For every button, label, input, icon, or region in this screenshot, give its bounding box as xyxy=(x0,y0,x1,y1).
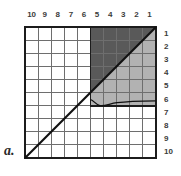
row-label-4: 4 xyxy=(164,69,176,77)
panel-letter: a. xyxy=(4,143,15,159)
row-label-8: 8 xyxy=(164,122,176,130)
row-label-1: 1 xyxy=(164,30,176,38)
row-label-9: 9 xyxy=(164,135,176,143)
column-label-4: 4 xyxy=(103,11,117,19)
column-label-10: 10 xyxy=(25,11,39,19)
figure-panel: 10 9 8 7 6 5 4 3 2 1 1 2 3 4 5 6 7 8 9 1… xyxy=(0,0,181,176)
row-label-7: 7 xyxy=(164,109,176,117)
row-label-2: 2 xyxy=(164,43,176,51)
column-label-7: 7 xyxy=(64,11,78,19)
column-label-2: 2 xyxy=(129,11,143,19)
column-label-5: 5 xyxy=(90,11,104,19)
column-label-8: 8 xyxy=(51,11,65,19)
column-label-3: 3 xyxy=(116,11,130,19)
row-label-3: 3 xyxy=(164,56,176,64)
row-label-10: 10 xyxy=(164,148,176,156)
row-label-5: 5 xyxy=(164,82,176,90)
column-label-6: 6 xyxy=(77,11,91,19)
grid-diagram xyxy=(0,0,181,176)
column-label-9: 9 xyxy=(38,11,52,19)
row-label-6: 6 xyxy=(164,96,176,104)
column-label-1: 1 xyxy=(143,11,157,19)
